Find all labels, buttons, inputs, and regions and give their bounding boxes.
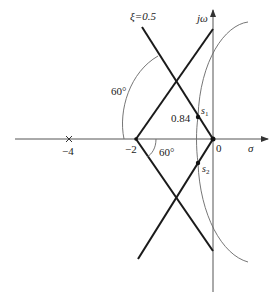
point-s1 xyxy=(196,115,200,119)
point-s2 xyxy=(196,161,200,165)
s2-label: s2 xyxy=(202,163,210,176)
root-locus-arc xyxy=(197,22,249,262)
point-origin xyxy=(211,137,216,142)
imag-axis-label: jω xyxy=(195,12,208,24)
s1-label: s1 xyxy=(201,105,209,118)
angle-label-upper: 60° xyxy=(111,85,126,97)
real-axis-label: σ xyxy=(248,142,254,154)
distance-label: 0.84 xyxy=(171,112,191,124)
tick-label-minus2: −2 xyxy=(125,143,137,155)
angle-arc-upper xyxy=(122,56,158,139)
tick-label-minus4: −4 xyxy=(62,145,74,157)
damping-label: ξ=0.5 xyxy=(130,10,156,23)
origin-label: 0 xyxy=(216,142,222,154)
svg-text:s2: s2 xyxy=(202,163,210,176)
angle-arc-lower xyxy=(147,139,156,157)
angle-label-lower: 60° xyxy=(159,146,174,158)
point-minus2 xyxy=(134,137,138,141)
svg-text:s1: s1 xyxy=(201,105,209,118)
s-plane-diagram: ξ=0.5 jω σ 0 −4 −2 60° 60° 0.84 s1 s2 xyxy=(0,0,278,306)
